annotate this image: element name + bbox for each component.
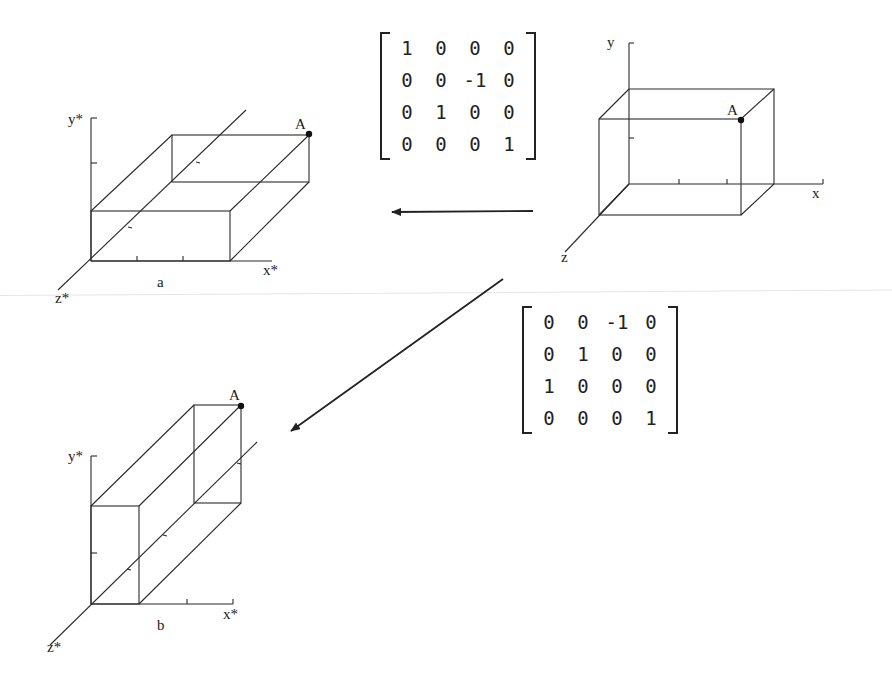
y-star-axis-label: y* — [68, 111, 83, 127]
rotated-x-box-figure: y* x* z* A a — [55, 110, 312, 306]
z-axis-label: z — [561, 249, 568, 265]
point-a-label: A — [229, 387, 240, 403]
x-star-axis-label: x* — [223, 606, 238, 622]
z-star-axis-label: z* — [47, 639, 61, 655]
rotation-matrix-y: 00-10 0100 1000 0001 — [522, 306, 678, 434]
point-a-marker — [738, 117, 744, 123]
dimension-b-label: b — [157, 617, 165, 633]
transform-arrow-down-left — [291, 279, 503, 431]
z-star-axis — [58, 110, 246, 290]
y-axis-label: y — [607, 34, 615, 50]
point-a-label: A — [727, 102, 738, 118]
point-a-label: A — [295, 116, 306, 132]
z-star-axis-label: z* — [55, 290, 69, 306]
y-star-axis-label: y* — [68, 448, 83, 464]
point-a-marker — [238, 403, 244, 409]
rotation-matrix-x: 1000 00-10 0100 0001 — [380, 32, 536, 160]
rotated-y-box-figure: y* x* z* A b — [47, 387, 257, 655]
point-a-marker — [306, 131, 312, 137]
original-box-figure: y x z A — [561, 34, 823, 265]
x-axis-label: x — [812, 185, 820, 201]
dimension-a-label: a — [157, 274, 164, 290]
x-star-axis-label: x* — [263, 262, 278, 278]
transform-arrow-left — [392, 211, 533, 212]
